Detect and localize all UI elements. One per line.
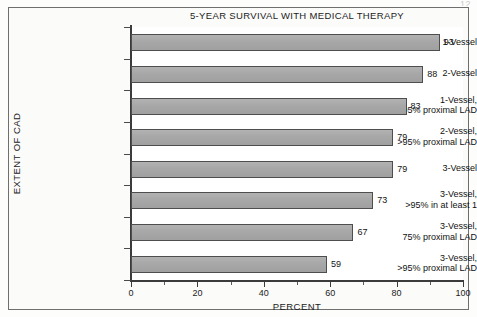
y-axis-category-label: 3-Vessel, >95% proximal LAD bbox=[359, 253, 477, 274]
x-axis-tick bbox=[264, 282, 265, 287]
y-axis-tick bbox=[124, 280, 131, 281]
chart-figure: 12 5-YEAR SURVIVAL WITH MEDICAL THERAPY … bbox=[0, 0, 477, 317]
page-number-marker: 12 bbox=[460, 0, 471, 6]
y-axis-tick bbox=[124, 59, 131, 60]
bar bbox=[131, 98, 407, 115]
bar bbox=[131, 161, 393, 178]
x-axis-tick bbox=[197, 282, 198, 287]
y-axis-tick bbox=[124, 248, 131, 249]
bar bbox=[131, 66, 423, 83]
bar-value-label: 83 bbox=[411, 101, 421, 111]
x-axis-tick-label: 40 bbox=[259, 288, 269, 298]
bar-value-label: 79 bbox=[397, 132, 407, 142]
y-axis-tick bbox=[124, 27, 131, 28]
x-axis-tick-label: 80 bbox=[392, 288, 402, 298]
y-axis-tick bbox=[124, 90, 131, 91]
x-axis-minor-tick bbox=[231, 282, 232, 285]
bar-value-label: 73 bbox=[377, 195, 387, 205]
x-axis-tick-label: 60 bbox=[325, 288, 335, 298]
x-axis-tick bbox=[131, 282, 132, 287]
bar bbox=[131, 34, 440, 51]
y-axis-tick bbox=[124, 154, 131, 155]
x-axis-minor-tick bbox=[164, 282, 165, 285]
x-axis-minor-tick bbox=[430, 282, 431, 285]
y-axis-tick bbox=[124, 185, 131, 186]
bar-value-label: 93 bbox=[444, 37, 454, 47]
x-axis-minor-tick bbox=[363, 282, 364, 285]
x-axis-tick bbox=[463, 282, 464, 287]
chart-title: 5-YEAR SURVIVAL WITH MEDICAL THERAPY bbox=[131, 10, 463, 21]
bar bbox=[131, 256, 327, 273]
bar-value-label: 88 bbox=[427, 69, 437, 79]
y-axis-category-label: 3-Vessel, 75% proximal LAD bbox=[359, 221, 477, 242]
bar-value-label: 67 bbox=[357, 227, 367, 237]
x-axis-tick bbox=[330, 282, 331, 287]
x-axis-tick-label: 0 bbox=[128, 288, 133, 298]
bar-value-label: 79 bbox=[397, 164, 407, 174]
x-axis-tick-label: 20 bbox=[192, 288, 202, 298]
bar bbox=[131, 192, 373, 209]
y-axis-tick bbox=[124, 217, 131, 218]
bar-value-label: 59 bbox=[331, 259, 341, 269]
bar bbox=[131, 129, 393, 146]
x-axis-tick-label: 100 bbox=[455, 288, 470, 298]
y-axis-tick bbox=[124, 122, 131, 123]
x-axis-title: PERCENT bbox=[131, 301, 463, 312]
x-axis-tick bbox=[397, 282, 398, 287]
bar bbox=[131, 224, 353, 241]
x-axis-minor-tick bbox=[297, 282, 298, 285]
y-axis-title: EXTENT OF CAD bbox=[11, 94, 22, 214]
